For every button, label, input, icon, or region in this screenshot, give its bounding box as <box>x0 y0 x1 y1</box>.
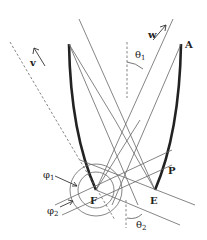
v-dashed-line <box>10 42 115 220</box>
label-theta1: θ1 <box>135 49 146 62</box>
theta1-arc <box>127 62 143 69</box>
concentrator-diagram: A P E F w v θ1 θ2 φ1 φ2 <box>0 0 207 240</box>
phi2-arrow-icon <box>60 200 73 207</box>
phi1-arrow-icon <box>55 176 77 186</box>
label-phi2: φ2 <box>47 205 58 218</box>
label-F: F <box>90 195 97 206</box>
label-w: w <box>147 29 157 40</box>
label-P: P <box>168 165 176 176</box>
label-E: E <box>150 195 158 206</box>
label-theta2: θ2 <box>136 219 147 232</box>
label-v: v <box>29 57 37 68</box>
label-A: A <box>184 39 193 50</box>
label-phi1: φ1 <box>43 169 54 182</box>
theta2-arc <box>127 214 142 219</box>
